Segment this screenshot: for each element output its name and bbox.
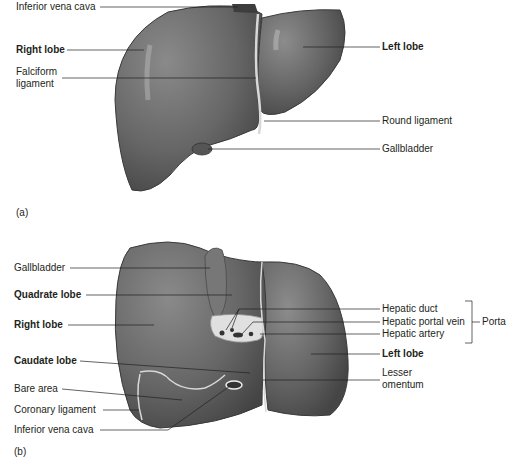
label-falciform-line1: Falciform [16,66,57,78]
label-hepatic-portal-vein: Hepatic portal vein [382,316,465,328]
ivc-shape-b [226,381,242,389]
panel-label-a: (a) [16,207,28,219]
label-gallbladder-b: Gallbladder [14,262,65,274]
label-inferior-vena-cava-b: Inferior vena cava [14,424,94,436]
label-right-lobe-a: Right lobe [16,44,65,56]
label-lesser-omentum-line1: Lesser [382,367,412,379]
left-lobe-shape-a [258,10,345,115]
ivc-shape-a [232,4,258,13]
label-gallbladder-a: Gallbladder [382,143,433,155]
label-left-lobe-b: Left lobe [382,348,424,360]
right-lobe-shape-a [115,6,262,191]
label-quadrate-lobe: Quadrate lobe [14,289,81,301]
label-hepatic-duct: Hepatic duct [382,303,438,315]
label-falciform-line2: ligament [16,78,54,90]
label-bare-area: Bare area [14,383,58,395]
label-inferior-vena-cava-a: Inferior vena cava [16,1,96,13]
panel-label-b: (b) [14,446,26,458]
label-coronary-ligament: Coronary ligament [14,404,96,416]
label-caudate-lobe: Caudate lobe [14,355,77,367]
left-lobe-shape-b [262,262,348,416]
label-lesser-omentum-line2: omentum [382,379,424,391]
label-porta: Porta [482,316,506,328]
figure-a-anterior-liver [62,4,380,191]
label-left-lobe-a: Left lobe [382,41,424,53]
label-right-lobe-b: Right lobe [14,319,63,331]
label-round-ligament: Round ligament [382,115,452,127]
label-hepatic-artery: Hepatic artery [382,328,444,340]
liver-illustration [0,0,524,474]
